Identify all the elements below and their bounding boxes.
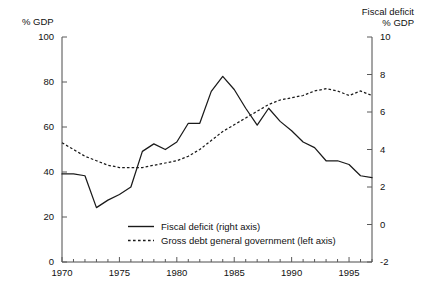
left-axis-tick-label: 60 xyxy=(0,121,54,132)
legend-item: Fiscal deficit (right axis) xyxy=(128,219,336,233)
right-axis-title-line1: Fiscal deficit xyxy=(362,6,414,17)
right-axis-tick-label: 0 xyxy=(380,219,385,230)
left-axis-tick-label: 0 xyxy=(0,256,54,267)
legend-label-gross-debt: Gross debt general government (left axis… xyxy=(161,235,336,246)
right-axis-title-line2: % GDP xyxy=(362,17,414,28)
right-axis-title: Fiscal deficit % GDP xyxy=(362,6,414,28)
right-axis-tick-label: 6 xyxy=(380,106,385,117)
right-axis-tick-label: -2 xyxy=(380,256,388,267)
legend-key-solid-icon xyxy=(128,222,154,231)
legend-key-dotted-icon xyxy=(128,236,154,245)
left-axis-tick-label: 20 xyxy=(0,211,54,222)
left-axis-tick-label: 40 xyxy=(0,166,54,177)
left-axis-tick-label: 80 xyxy=(0,76,54,87)
right-axis-tick-label: 4 xyxy=(380,144,385,155)
right-axis-tick-label: 10 xyxy=(380,31,391,42)
right-axis-tick-label: 8 xyxy=(380,69,385,80)
left-axis-tick-label: 100 xyxy=(0,31,54,42)
x-axis-tick-label: 1985 xyxy=(214,267,254,278)
x-axis-tick-label: 1995 xyxy=(329,267,369,278)
legend-item: Gross debt general government (left axis… xyxy=(128,233,336,247)
series-line-fiscal-deficit xyxy=(62,76,372,207)
x-axis-tick-label: 1970 xyxy=(42,267,82,278)
series-line-gross-debt xyxy=(62,89,372,168)
left-axis-title: % GDP xyxy=(22,16,54,27)
x-axis-tick-label: 1980 xyxy=(157,267,197,278)
chart-legend: Fiscal deficit (right axis) Gross debt g… xyxy=(128,219,336,247)
legend-label-fiscal-deficit: Fiscal deficit (right axis) xyxy=(161,221,260,232)
series-group xyxy=(62,76,372,207)
right-axis-tick-label: 2 xyxy=(380,181,385,192)
x-axis-tick-label: 1990 xyxy=(272,267,312,278)
x-axis-tick-label: 1975 xyxy=(99,267,139,278)
